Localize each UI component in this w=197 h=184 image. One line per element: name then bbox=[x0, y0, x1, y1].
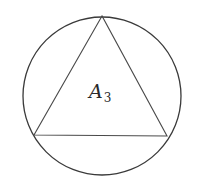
area-label-main: A bbox=[89, 80, 103, 102]
area-label-subscript: 3 bbox=[104, 91, 112, 105]
area-label: A3 bbox=[89, 82, 111, 104]
